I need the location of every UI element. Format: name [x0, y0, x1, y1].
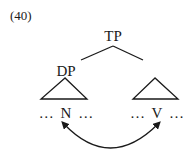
tp-node-label: TP [104, 28, 122, 44]
left-dots-before-n: … [39, 105, 54, 121]
tp-right-branch [113, 46, 143, 60]
right-terminal-string: … V … [130, 105, 184, 121]
left-dots-after-n: … [78, 105, 93, 121]
v-head: V [152, 105, 163, 121]
dp-node-label: DP [56, 63, 75, 79]
n-v-relation-arrow [64, 124, 158, 148]
right-triangle [133, 78, 178, 99]
right-dots-before-v: … [130, 105, 145, 121]
tp-left-branch [81, 46, 113, 60]
n-head: N [61, 105, 72, 121]
example-number: (40) [10, 8, 32, 23]
right-dots-after-v: … [169, 105, 184, 121]
left-terminal-string: … N … [39, 105, 93, 121]
syntax-tree-diagram: (40) TP DP … N … … V … [0, 0, 190, 157]
dp-triangle [41, 78, 87, 99]
